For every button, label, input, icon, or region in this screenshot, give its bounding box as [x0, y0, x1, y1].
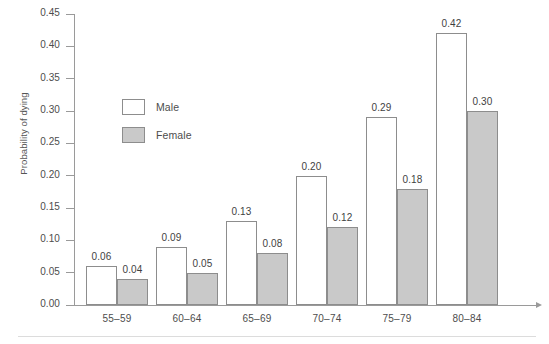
y-axis-tick [66, 46, 74, 47]
page-rule [18, 336, 536, 337]
y-axis-tick [66, 305, 74, 306]
y-axis-tick-label: 0.10 [0, 233, 60, 244]
y-axis-tick-label: 0.25 [0, 136, 60, 147]
bar-male-75-79 [366, 117, 397, 305]
legend-label-male: Male [156, 101, 179, 113]
legend-swatch-female [122, 127, 145, 143]
y-axis-tick-label: 0.45 [0, 7, 60, 18]
y-axis-tick-label: 0.35 [0, 72, 60, 83]
legend-label-female: Female [156, 129, 192, 141]
y-axis-tick-label: 0.00 [0, 298, 60, 309]
legend-swatch-male [122, 99, 145, 115]
y-axis-tick [66, 143, 74, 144]
y-axis-tick-label: 0.20 [0, 169, 60, 180]
x-axis-tick-label: 80–84 [427, 313, 507, 324]
y-axis-tick [66, 272, 74, 273]
bar-female-65-69 [257, 253, 288, 305]
bar-chart: Probability of dying 0.450.400.350.300.2… [0, 0, 549, 344]
y-axis-line [74, 14, 75, 305]
y-axis-tick [66, 14, 74, 15]
bar-female-55-59 [117, 279, 148, 305]
y-axis-tick-label: 0.30 [0, 104, 60, 115]
bar-value-label: 0.29 [359, 102, 405, 113]
bar-male-70-74 [296, 176, 327, 305]
bar-female-60-64 [187, 273, 218, 305]
y-axis-tick [66, 78, 74, 79]
bar-value-label: 0.12 [320, 212, 366, 223]
bar-female-80-84 [467, 111, 498, 305]
y-axis-tick [66, 208, 74, 209]
y-axis-tick [66, 175, 74, 176]
x-axis-tick-label: 70–74 [287, 313, 367, 324]
bar-female-70-74 [327, 227, 358, 305]
bar-value-label: 0.30 [460, 96, 506, 107]
y-axis-title: Probability of dying [18, 64, 29, 204]
x-axis-tick-label: 65–69 [217, 313, 297, 324]
bar-value-label: 0.08 [250, 238, 296, 249]
x-axis-arrow-icon [536, 302, 542, 308]
bar-male-80-84 [436, 33, 467, 305]
bar-female-75-79 [397, 189, 428, 305]
bar-value-label: 0.13 [219, 206, 265, 217]
y-axis-tick-label: 0.05 [0, 266, 60, 277]
bar-value-label: 0.06 [79, 251, 125, 262]
y-axis-tick [66, 111, 74, 112]
bar-value-label: 0.18 [390, 174, 436, 185]
x-axis-tick-label: 60–64 [147, 313, 227, 324]
bar-value-label: 0.04 [110, 264, 156, 275]
y-axis-tick-label: 0.40 [0, 39, 60, 50]
bar-value-label: 0.20 [289, 161, 335, 172]
bar-value-label: 0.09 [149, 232, 195, 243]
x-axis-line [74, 305, 536, 306]
x-axis-tick-label: 55–59 [77, 313, 157, 324]
y-axis-tick [66, 240, 74, 241]
bar-male-60-64 [156, 247, 187, 305]
x-axis-tick-label: 75–79 [357, 313, 437, 324]
bar-value-label: 0.42 [429, 18, 475, 29]
bar-value-label: 0.05 [180, 258, 226, 269]
y-axis-tick-label: 0.15 [0, 201, 60, 212]
bar-male-65-69 [226, 221, 257, 305]
